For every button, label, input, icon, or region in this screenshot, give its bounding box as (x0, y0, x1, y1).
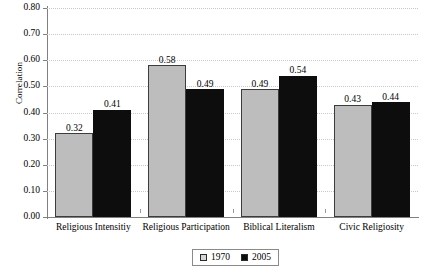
y-axis-tick-label: 0.80 (23, 3, 40, 13)
y-axis-tick (43, 113, 47, 114)
bar-value-label: 0.41 (104, 100, 121, 110)
y-axis-tick (43, 139, 47, 140)
y-axis-tick-label: 0.20 (23, 160, 40, 170)
bar-value-label: 0.54 (290, 66, 307, 76)
bar-1970-2: 0.58 (148, 65, 186, 217)
bar-chart: Correlation 0.800.700.600.500.400.300.20… (0, 0, 428, 270)
x-axis-tick (233, 209, 234, 213)
y-axis-tick (43, 165, 47, 166)
y-axis-tick (43, 217, 47, 218)
y-axis-tick-label: 0.10 (23, 186, 40, 196)
bar-value-label: 0.43 (344, 95, 361, 105)
legend-label: 1970 (211, 253, 230, 263)
gridline (47, 86, 418, 87)
x-axis-label-1: Religious Intensitiy (56, 222, 131, 232)
y-axis-tick (43, 60, 47, 61)
bar-value-label: 0.32 (66, 124, 83, 134)
bar-value-label: 0.44 (382, 93, 399, 103)
y-axis-tick (43, 86, 47, 87)
bar-2005-2: 0.49 (186, 89, 224, 217)
gridline (47, 60, 418, 61)
x-axis-label-3: Biblical Literalism (243, 222, 315, 232)
bar-value-label: 0.49 (197, 80, 214, 90)
y-axis-tick-label: 0.60 (23, 56, 40, 66)
y-axis-tick-label: 0.50 (23, 82, 40, 92)
x-axis-tick (325, 209, 326, 213)
chart-legend: 1970 2005 (192, 249, 279, 266)
x-axis-label-2: Religious Participation (142, 222, 229, 232)
legend-item-2005: 2005 (241, 253, 271, 263)
y-axis-tick-label: 0.40 (23, 108, 40, 118)
y-axis-tick (43, 34, 47, 35)
y-axis-tick-label: 0.30 (23, 134, 40, 144)
y-axis-tick-label: 0.70 (23, 29, 40, 39)
gridline (47, 34, 418, 35)
bar-2005-1: 0.41 (93, 110, 131, 217)
bar-1970-3: 0.49 (241, 89, 279, 217)
bar-1970-4: 0.43 (334, 105, 372, 217)
x-axis-label-4: Civic Religiosity (339, 222, 404, 232)
x-axis-line (47, 217, 419, 218)
bar-2005-3: 0.54 (279, 76, 317, 217)
bar-value-label: 0.49 (252, 80, 269, 90)
gray-swatch-icon (200, 254, 207, 261)
black-swatch-icon (241, 254, 248, 261)
plot-area: 0.800.700.600.500.400.300.200.100.00 0.3… (47, 8, 418, 217)
y-axis-tick (43, 8, 47, 9)
bar-1970-1: 0.32 (55, 133, 93, 217)
x-axis-tick (140, 209, 141, 213)
gridline (47, 8, 418, 9)
bar-2005-4: 0.44 (372, 102, 410, 217)
y-axis-tick (43, 191, 47, 192)
legend-label: 2005 (252, 253, 271, 263)
y-axis-tick-label: 0.00 (23, 212, 40, 222)
legend-item-1970: 1970 (200, 253, 230, 263)
bar-value-label: 0.58 (159, 56, 176, 66)
